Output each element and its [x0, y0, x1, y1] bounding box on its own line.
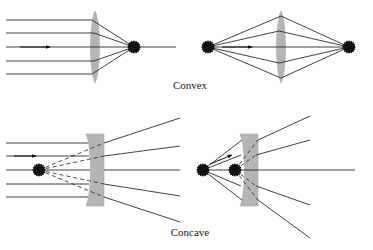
caption-concave: Concave	[171, 226, 210, 238]
figure-background	[0, 0, 373, 250]
virtual-focal-point-marker	[33, 164, 44, 175]
image-point-marker	[343, 41, 354, 52]
caption-convex: Convex	[173, 79, 208, 91]
virtual-image-point-marker	[229, 164, 240, 175]
optics-figure: Convex	[0, 0, 373, 250]
focal-point-marker	[128, 41, 139, 52]
object-point-marker	[202, 41, 213, 52]
ray-diagram-canvas: Convex	[0, 0, 373, 250]
object-point-marker	[197, 164, 208, 175]
